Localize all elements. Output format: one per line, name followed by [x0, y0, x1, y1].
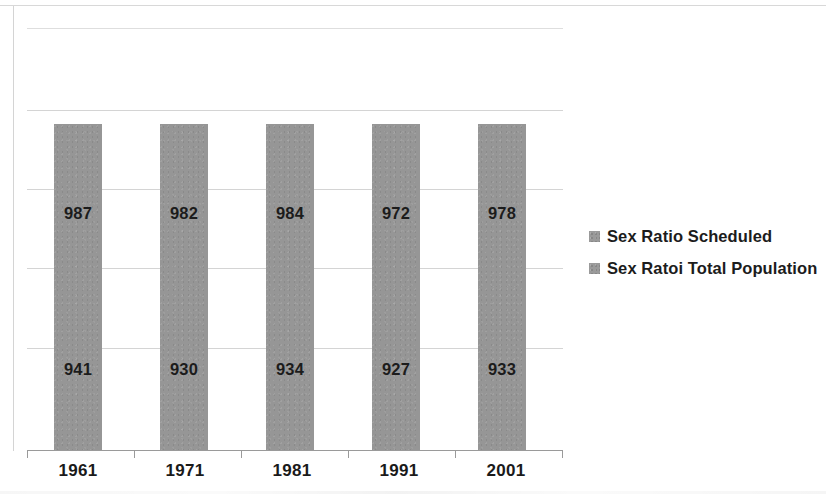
bar-group-1981[interactable]: 984 934	[266, 124, 314, 451]
legend-item-label: Sex Ratio Scheduled	[607, 227, 772, 246]
bar-group-1991[interactable]: 972 927	[372, 124, 420, 451]
bar-value-label-lower: 941	[54, 361, 102, 378]
x-axis-line	[27, 450, 563, 451]
x-axis-label-1991: 1991	[345, 461, 453, 481]
bar-group-1971[interactable]: 982 930	[160, 124, 208, 451]
x-axis-tick	[348, 451, 349, 458]
bar-value-label-lower: 930	[160, 361, 208, 378]
bar-group-1961[interactable]: 987 941	[54, 124, 102, 451]
x-axis-tick	[241, 451, 242, 458]
bar-value-label-lower: 933	[478, 361, 526, 378]
x-axis-tick	[27, 451, 28, 458]
bar-value-label-upper: 984	[266, 205, 314, 222]
chart-legend: Sex Ratio Scheduled Sex Ratoi Total Popu…	[589, 220, 821, 284]
legend-item-label: Sex Ratoi Total Population	[607, 259, 817, 278]
legend-item-sex-ratio-scheduled[interactable]: Sex Ratio Scheduled	[589, 220, 821, 252]
bar-value-label-upper: 972	[372, 205, 420, 222]
x-axis-tick	[562, 451, 563, 458]
legend-item-sex-ratio-total-population[interactable]: Sex Ratoi Total Population	[589, 252, 821, 284]
x-axis-tick	[134, 451, 135, 458]
legend-swatch-icon	[589, 231, 600, 242]
bar-value-label-upper: 987	[54, 205, 102, 222]
x-axis-label-1961: 1961	[24, 461, 132, 481]
bar-chart: 987 941 982 930 984 934 972 927 978 933	[0, 0, 826, 494]
x-axis-label-1971: 1971	[131, 461, 239, 481]
bar-value-label-lower: 934	[266, 361, 314, 378]
x-axis-label-2001: 2001	[452, 461, 560, 481]
x-axis-tick	[455, 451, 456, 458]
bar-group-2001[interactable]: 978 933	[478, 124, 526, 451]
bar-value-label-lower: 927	[372, 361, 420, 378]
legend-swatch-icon	[589, 263, 600, 274]
x-axis-label-1981: 1981	[238, 461, 346, 481]
bar-value-label-upper: 982	[160, 205, 208, 222]
bar-value-label-upper: 978	[478, 205, 526, 222]
